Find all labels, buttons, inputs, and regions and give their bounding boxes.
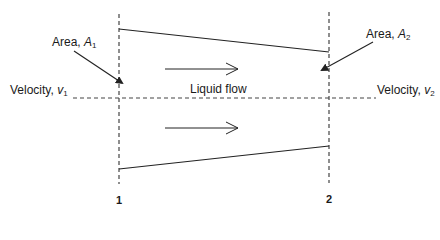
area1-label: Area, A1 [52,35,96,53]
area2-label: Area, A2 [366,27,410,45]
pipe-bottom-wall [119,146,329,169]
flow-arrow-lower-icon [165,122,238,134]
velocity2-label: Velocity, v2 [377,83,435,101]
flow-arrow-upper-icon [165,63,238,75]
liquid-flow-label: Liquid flow [190,82,247,96]
area1-pointer-icon [74,51,122,83]
section-1-number: 1 [116,194,122,206]
velocity1-label: Velocity, v1 [10,83,68,101]
section-2-number: 2 [326,193,332,205]
area2-pointer-icon [322,42,373,70]
pipe-top-wall [119,29,329,52]
